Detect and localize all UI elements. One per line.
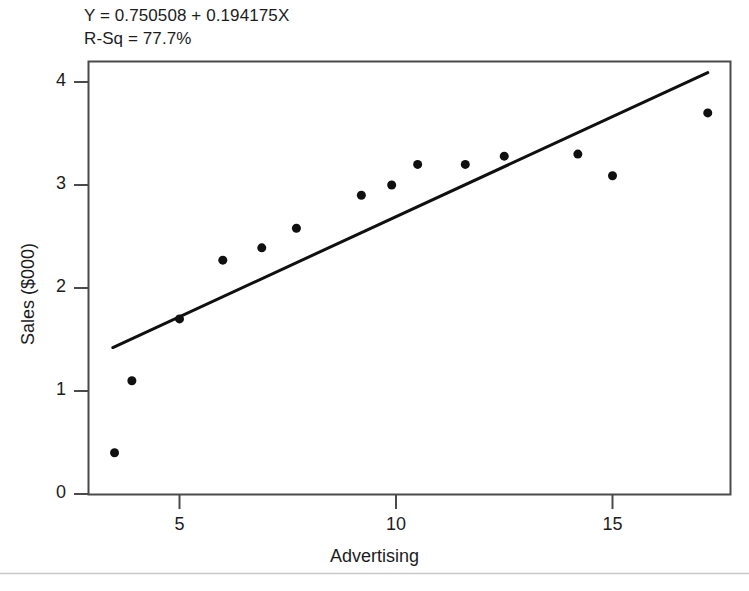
data-point: [500, 152, 509, 161]
data-point: [357, 191, 366, 200]
x-axis-title: Advertising: [0, 546, 749, 567]
y-tick-label: 1: [24, 379, 66, 400]
data-point: [292, 224, 301, 233]
data-point: [175, 314, 184, 323]
plot-frame: [89, 62, 731, 495]
y-tick-label: 0: [24, 482, 66, 503]
data-points: [110, 108, 712, 457]
x-axis-ticks: [180, 495, 613, 509]
data-point: [127, 376, 136, 385]
y-tick-label: 3: [24, 173, 66, 194]
regression-line: [113, 73, 708, 348]
data-point: [608, 171, 617, 180]
data-point: [461, 160, 470, 169]
data-point: [703, 108, 712, 117]
y-axis-title: Sales ($000): [18, 243, 39, 345]
data-point: [573, 150, 582, 159]
x-tick-label: 10: [366, 514, 426, 535]
data-point: [257, 243, 266, 252]
data-point: [110, 448, 119, 457]
data-point: [413, 160, 422, 169]
data-point: [218, 256, 227, 265]
y-tick-label: 4: [24, 70, 66, 91]
regression-line-segment: [113, 73, 708, 348]
x-tick-label: 15: [583, 514, 643, 535]
data-point: [387, 181, 396, 190]
scatter-plot-figure: Y = 0.750508 + 0.194175X R-Sq = 77.7% 51…: [0, 0, 749, 591]
x-tick-label: 5: [150, 514, 210, 535]
y-axis-ticks: [74, 82, 88, 494]
plot-canvas: [0, 0, 749, 591]
